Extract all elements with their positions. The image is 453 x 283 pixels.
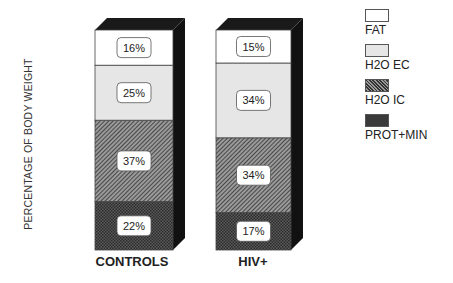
- legend-item-h2o-ec: H2O EC: [365, 44, 410, 72]
- data-label: 37%: [123, 155, 145, 167]
- legend-label-fat: FAT: [365, 23, 389, 37]
- data-label: 15%: [242, 41, 264, 53]
- data-label: 34%: [242, 94, 264, 106]
- legend-item-prot-min: PROT+MIN: [365, 114, 427, 142]
- category-label-controls: CONTROLS: [82, 254, 182, 269]
- data-label: 34%: [242, 169, 264, 181]
- legend-swatch-fat: [365, 9, 389, 22]
- bar-top-face: [216, 18, 303, 30]
- legend-item-h2o-ic: H2O IC: [365, 79, 405, 107]
- bar-top-face: [95, 18, 185, 30]
- y-axis-label: PERCENTAGE OF BODY WEIGHT: [22, 44, 34, 244]
- legend-label-h2o-ec: H2O EC: [365, 58, 410, 72]
- data-label: 22%: [123, 220, 145, 232]
- legend-label-prot-min: PROT+MIN: [365, 128, 427, 142]
- legend-swatch-h2o-ec: [365, 44, 389, 57]
- bar-side-face: [173, 18, 185, 250]
- bar-side-face: [291, 18, 303, 250]
- data-label: 25%: [123, 87, 145, 99]
- data-label: 17%: [242, 225, 264, 237]
- legend-item-fat: FAT: [365, 9, 389, 37]
- legend-swatch-h2o-ic: [365, 79, 389, 92]
- category-label-hiv: HIV+: [208, 254, 298, 269]
- legend-swatch-prot-min: [365, 114, 389, 127]
- data-label: 16%: [123, 42, 145, 54]
- legend-label-h2o-ic: H2O IC: [365, 93, 405, 107]
